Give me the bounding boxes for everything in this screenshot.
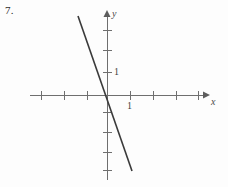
y-unit-tick-label: 1 (114, 66, 119, 77)
y-axis-arrow-icon (104, 10, 111, 17)
plotted-line (78, 16, 132, 171)
x-unit-tick-label: 1 (127, 100, 132, 111)
coordinate-plane: y x 1 1 (0, 0, 228, 187)
x-axis-letter: x (210, 96, 216, 107)
y-axis-letter: y (111, 8, 117, 19)
graph-figure: 7. y x (0, 0, 228, 187)
x-axis-arrow-icon (203, 92, 210, 99)
